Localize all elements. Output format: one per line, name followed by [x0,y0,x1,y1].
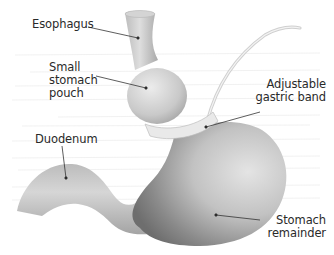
band-text-line2: gastric band [256,91,326,104]
label-duodenum: Duodenum [35,133,98,146]
esophagus-shape [125,11,158,70]
remainder-text-line2: remainder [268,227,327,240]
stomach-remainder-shape [132,122,286,246]
band-tubing [207,27,300,122]
label-esophagus: Esophagus [32,18,94,31]
esophagus-text: Esophagus [32,18,94,31]
label-stomach-remainder: Stomach remainder [268,214,327,240]
stomach-pouch-shape [127,68,187,124]
label-adjustable-gastric-band: Adjustable gastric band [256,78,326,104]
duodenum-text: Duodenum [35,133,98,146]
esophagus-opening [125,11,155,18]
pouch-text-line3: pouch [49,87,98,100]
label-small-stomach-pouch: Small stomach pouch [49,61,98,100]
